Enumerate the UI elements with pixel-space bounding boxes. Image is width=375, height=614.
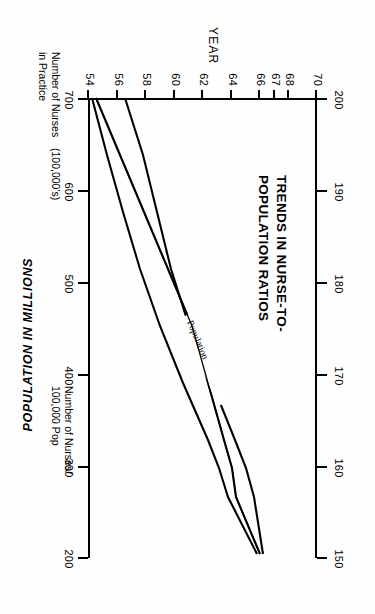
year-tick-66 xyxy=(258,90,260,99)
year-tick-62 xyxy=(201,90,203,99)
nurses-ticklabel-200: 200 xyxy=(63,545,75,573)
year-ticklabel-56: 56 xyxy=(113,64,125,86)
nurses-ticklabel-700: 700 xyxy=(63,86,75,114)
year-tick-67 xyxy=(273,90,275,99)
curve-population xyxy=(96,98,260,554)
pop-tick-150 xyxy=(317,557,327,559)
population-axis-line xyxy=(315,98,317,558)
population-ticklabel-150: 150 xyxy=(333,545,345,573)
population-ticklabel-160: 160 xyxy=(333,454,345,482)
curve-nurses-per-100k xyxy=(92,98,257,554)
nurses-ticklabel-600: 600 xyxy=(63,178,75,206)
year-ticklabel-67: 67 xyxy=(270,64,282,86)
left-axis-caption-line1: Number of Nurses xyxy=(49,52,62,137)
pop-tick-170 xyxy=(317,374,327,376)
population-ticklabel-170: 170 xyxy=(333,362,345,390)
nurses-ticklabel-500: 500 xyxy=(63,270,75,298)
year-ticklabel-60: 60 xyxy=(170,64,182,86)
nurses-tick-500 xyxy=(78,282,88,284)
pop-tick-190 xyxy=(317,190,327,192)
year-tick-58 xyxy=(144,90,146,99)
curve-label-population-group: Population xyxy=(185,316,223,404)
nurses-tick-300 xyxy=(78,466,88,468)
nurses-tick-700 xyxy=(78,98,88,100)
year-ticklabel-66: 66 xyxy=(255,64,267,86)
population-ticklabel-180: 180 xyxy=(333,270,345,298)
year-tick-60 xyxy=(173,90,175,99)
year-ticklabel-70: 70 xyxy=(312,64,324,86)
left-axis-units: (100,000's) xyxy=(49,148,62,200)
year-tick-56 xyxy=(116,90,118,99)
left-axis-caption-line2: in Practice xyxy=(36,52,49,101)
population-ticklabel-190: 190 xyxy=(333,178,345,206)
nurses-tick-200 xyxy=(78,557,88,559)
pop-tick-160 xyxy=(317,466,327,468)
year-tick-64 xyxy=(230,90,232,99)
year-ticklabel-54: 54 xyxy=(84,64,96,86)
rotated-figure-wrapper: Population xyxy=(0,0,375,614)
pop-tick-180 xyxy=(317,282,327,284)
population-axis-name: POPULATION IN MILLIONS xyxy=(21,258,35,431)
population-ticklabel-200: 200 xyxy=(333,86,345,114)
year-ticklabel-58: 58 xyxy=(141,64,153,86)
year-axis-name: YEAR xyxy=(206,27,220,64)
year-ticklabel-62: 62 xyxy=(198,64,210,86)
pop-tick-200 xyxy=(317,98,327,100)
secondary-axis-caption-line1: Number of Nurses/ xyxy=(62,386,75,474)
year-ticklabel-68: 68 xyxy=(284,64,296,86)
year-tick-68 xyxy=(287,90,289,99)
nurses-tick-400 xyxy=(78,374,88,376)
figure: Population xyxy=(0,0,375,614)
chart-title-line1: TRENDS IN NURSE-TO- xyxy=(272,175,289,332)
chart-title-line2: POPULATION RATIOS xyxy=(254,175,271,321)
year-ticklabel-64: 64 xyxy=(227,64,239,86)
chart-page: Population xyxy=(0,0,375,614)
nurses-tick-600 xyxy=(78,190,88,192)
secondary-axis-caption-line2: 100,000 Pop xyxy=(49,386,62,446)
